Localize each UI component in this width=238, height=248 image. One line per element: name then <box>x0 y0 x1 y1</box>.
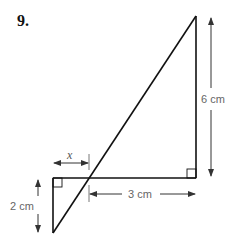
dimension-3cm: 3 cm <box>89 185 195 202</box>
label-6cm: 6 cm <box>201 93 225 105</box>
right-angle-marker <box>187 169 196 178</box>
large-triangle <box>53 16 196 233</box>
dimension-2cm: 2 cm <box>10 180 38 232</box>
label-3cm: 3 cm <box>128 188 152 200</box>
dimension-6cm: 6 cm <box>201 18 225 176</box>
similar-triangles-diagram: 6 cm 2 cm 3 cm x <box>0 0 238 248</box>
label-2cm: 2 cm <box>10 200 34 212</box>
label-x: x <box>66 148 73 162</box>
right-angle-marker <box>53 178 62 187</box>
dimension-x: x <box>54 148 89 170</box>
